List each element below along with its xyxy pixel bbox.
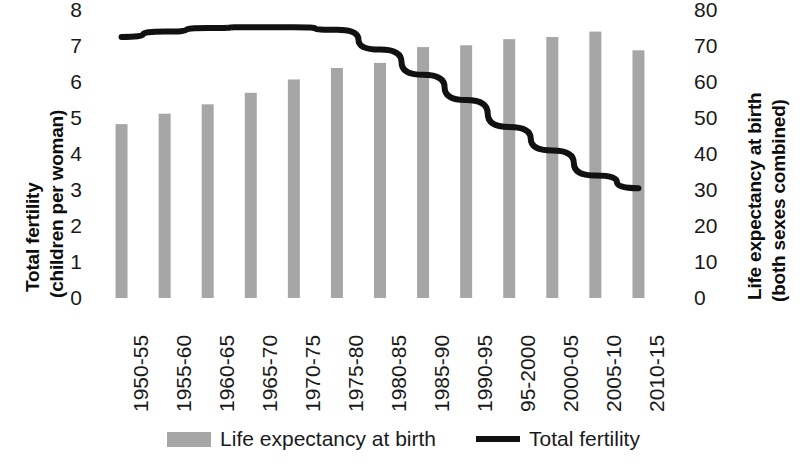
right-axis-tick-20: 20: [694, 215, 736, 236]
left-axis-tick-8: 8: [54, 0, 82, 20]
legend-label: Total fertility: [529, 428, 640, 450]
right-axis-tick-60: 60: [694, 71, 736, 92]
bar-life-expectancy: [288, 79, 300, 298]
left-axis-tick-6: 6: [54, 71, 82, 92]
right-axis-title-line1: Life expectancy at birth: [744, 93, 765, 300]
left-axis-tick-labels: 876543210: [54, 0, 82, 473]
left-axis-tick-4: 4: [54, 143, 82, 164]
left-axis-title-line1: Total fertility: [22, 182, 43, 292]
x-axis-tick-label: 1980-85: [388, 335, 409, 412]
x-axis-tick-labels: 1950-551955-601960-651965-701970-751975-…: [100, 300, 660, 420]
right-axis-tick-30: 30: [694, 179, 736, 200]
bar-life-expectancy: [116, 124, 128, 298]
bar-life-expectancy: [159, 114, 171, 298]
x-axis-tick-label: 2010-15: [646, 335, 667, 412]
right-axis-tick-40: 40: [694, 143, 736, 164]
left-axis-tick-3: 3: [54, 179, 82, 200]
legend-line-swatch-icon: [476, 436, 520, 442]
left-axis-tick-0: 0: [54, 287, 82, 308]
legend-bar-swatch-icon: [167, 432, 211, 447]
chart-container: Total fertility (children per woman) Lif…: [0, 0, 807, 473]
plot-graphics: [100, 10, 660, 298]
x-axis-tick-label: 2000-05: [560, 335, 581, 412]
bar-life-expectancy: [331, 68, 343, 298]
bar-life-expectancy: [632, 50, 644, 298]
x-axis-tick-label: 95-2000: [517, 335, 538, 412]
x-axis-tick-label: 1975-80: [345, 335, 366, 412]
right-axis-tick-70: 70: [694, 35, 736, 56]
left-axis-tick-1: 1: [54, 251, 82, 272]
right-axis-tick-50: 50: [694, 107, 736, 128]
bar-life-expectancy: [374, 63, 386, 298]
x-axis-tick-label: 1960-65: [216, 335, 237, 412]
right-axis-tick-80: 80: [694, 0, 736, 20]
x-axis-tick-label: 1950-55: [130, 335, 151, 412]
right-axis-tick-labels: 80706050403020100: [694, 0, 736, 473]
legend-entry: Total fertility: [476, 428, 640, 450]
legend-entry: Life expectancy at birth: [167, 428, 436, 450]
x-axis-tick-label: 1985-90: [431, 335, 452, 412]
x-axis-tick-label: 1970-75: [302, 335, 323, 412]
right-axis-tick-10: 10: [694, 251, 736, 272]
right-axis-tick-0: 0: [694, 287, 736, 308]
right-axis-title-line2: (both sexes combined): [768, 99, 789, 302]
x-axis-tick-label: 1990-95: [474, 335, 495, 412]
bar-life-expectancy: [589, 32, 601, 298]
bar-life-expectancy: [546, 37, 558, 298]
legend-label: Life expectancy at birth: [220, 428, 436, 450]
x-axis-tick-label: 1955-60: [173, 335, 194, 412]
chart-legend: Life expectancy at birthTotal fertility: [0, 428, 807, 450]
bar-life-expectancy: [460, 45, 472, 298]
left-axis-tick-2: 2: [54, 215, 82, 236]
bar-life-expectancy: [245, 93, 257, 298]
x-axis-tick-label: 2005-10: [603, 335, 624, 412]
plot-area: [100, 10, 660, 298]
bar-life-expectancy: [417, 47, 429, 298]
left-axis-tick-7: 7: [54, 35, 82, 56]
bar-life-expectancy: [503, 39, 515, 298]
left-axis-tick-5: 5: [54, 107, 82, 128]
bar-life-expectancy: [202, 104, 214, 298]
x-axis-tick-label: 1965-70: [259, 335, 280, 412]
